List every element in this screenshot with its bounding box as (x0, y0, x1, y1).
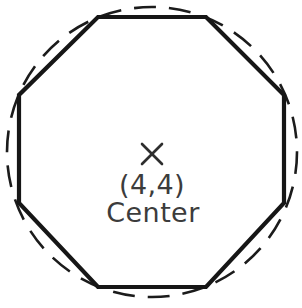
diagram-canvas: (4,4) Center (0, 0, 302, 308)
center-label: Center (106, 197, 200, 228)
coordinates-label: (4,4) (119, 169, 185, 200)
octagon-diagram: (4,4) Center (0, 0, 302, 308)
center-x-mark-icon (142, 144, 162, 164)
circumscribed-dashed-circle (7, 7, 297, 297)
